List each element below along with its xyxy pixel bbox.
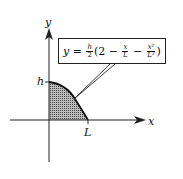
- diagram-graphics: [0, 0, 183, 179]
- eq-open: (2 −: [94, 45, 122, 58]
- y-axis-label: y: [45, 17, 51, 28]
- eq-minus: −: [129, 45, 145, 58]
- equation-box: y = h2 (2 − xL − x²L² ): [58, 38, 166, 64]
- x-axis-label: x: [148, 116, 154, 127]
- h-label: h: [37, 76, 44, 87]
- leader-line-1: [74, 64, 110, 99]
- leader-line-2: [74, 64, 115, 99]
- L-label: L: [84, 127, 91, 138]
- eq-term1: xL: [122, 44, 128, 59]
- eq-coef: h2: [86, 44, 93, 59]
- eq-term2: x²L²: [147, 44, 156, 59]
- eq-close: ): [156, 45, 160, 58]
- shaded-region: [49, 82, 88, 120]
- eq-equals: =: [69, 45, 85, 58]
- diagram: y x h L y = h2 (2 − xL − x²L² ): [0, 0, 183, 179]
